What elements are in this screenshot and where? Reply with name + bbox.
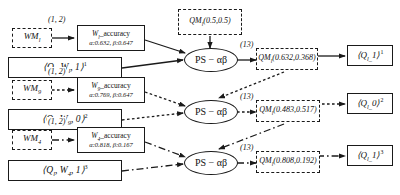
prior-qm-label: QMl(0.5,0.5) — [189, 17, 230, 27]
output-node-row3[interactable]: ⟨Ql_1⟩3 — [347, 145, 393, 166]
edge-q1-to-ps1 — [122, 60, 183, 68]
ps-label-row1: PS − αβ — [195, 55, 227, 66]
qm-label-row2: QMl(0.483,0.517) — [259, 106, 316, 116]
ps-label-row2: PS − αβ — [195, 107, 227, 118]
query-label-row3: ⟨Ql, W4, 1⟩3 — [42, 164, 87, 177]
qm-label-row1: QMl(0.632,0.368) — [258, 54, 315, 64]
accuracy-box-row2[interactable]: W9_accuracy α:0.769, β:0.647 — [77, 77, 145, 103]
edge-label-wm3: (1, 2) — [47, 117, 66, 126]
edge-acc3-to-ps3 — [145, 142, 185, 157]
output-node-row1[interactable]: ⟨Ql_1⟩1 — [347, 45, 393, 66]
output-label-row1: ⟨Ql_1⟩1 — [357, 49, 384, 62]
wm-label-row3: WM4 — [23, 134, 41, 145]
accuracy-params-row1: α:0.632, β:0.647 — [89, 40, 132, 47]
accuracy-box-row3[interactable]: W4_accuracy α:0.818, β:0.167 — [77, 127, 145, 153]
accuracy-box-row1[interactable]: Wl_accuracy α:0.632, β:0.647 — [77, 25, 145, 51]
wm-label-row1: WMl — [24, 32, 41, 43]
edge-label-ps2: (13) — [239, 92, 254, 101]
qm-box-row2[interactable]: QMl(0.483,0.517) — [256, 100, 320, 122]
qm-label-row3: QMl(0.808,0.192) — [259, 157, 316, 167]
edge-label-ps1: (13) — [239, 40, 254, 49]
prior-qm-box[interactable]: QMl(0.5,0.5) — [178, 9, 242, 35]
output-label-row3: ⟨Ql_1⟩3 — [357, 149, 384, 162]
ps-node-row3[interactable]: PS − αβ — [184, 151, 238, 175]
edge-acc1-to-ps1 — [145, 40, 185, 53]
ps-node-row1[interactable]: PS − αβ — [184, 48, 238, 72]
qm-box-row3[interactable]: QMl(0.808,0.192) — [256, 151, 320, 173]
query-node-row3[interactable]: ⟨Ql, W4, 1⟩3 — [8, 160, 122, 181]
accuracy-params-row3: α:0.818, β:0.167 — [89, 142, 132, 149]
wm-label-row2: WM9 — [23, 84, 41, 95]
edge-label-wm2: (1, 2) — [47, 67, 66, 76]
edge-label-ps3: (13) — [239, 143, 254, 152]
edge-label-wm1: (1, 2) — [47, 15, 66, 24]
wm-node-row1[interactable]: WMl — [12, 28, 52, 48]
output-label-row2: ⟨Ql_0⟩2 — [357, 97, 384, 110]
wm-node-row2[interactable]: WM9 — [12, 80, 52, 100]
ps-node-row2[interactable]: PS − αβ — [184, 100, 238, 124]
wm-node-row3[interactable]: WM4 — [12, 130, 52, 150]
edge-q3-to-ps3 — [122, 164, 183, 171]
ps-label-row3: PS − αβ — [195, 158, 227, 169]
edge-acc2-to-ps2 — [145, 92, 185, 106]
edge-q2-to-ps2 — [122, 113, 183, 120]
output-node-row2[interactable]: ⟨Ql_0⟩2 — [347, 93, 393, 114]
qm-box-row1[interactable]: QMl(0.632,0.368) — [256, 48, 318, 70]
accuracy-params-row2: α:0.769, β:0.647 — [89, 92, 132, 99]
